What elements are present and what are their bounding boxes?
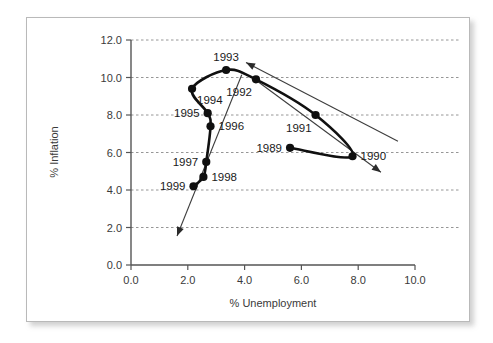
x-tick-label-2: 2.0 bbox=[180, 274, 195, 286]
y-tick-label-6: 6.0 bbox=[107, 147, 122, 159]
data-label-1993: 1993 bbox=[213, 51, 239, 63]
data-point-1999 bbox=[189, 182, 197, 190]
data-point-1996 bbox=[206, 122, 214, 130]
data-label-1999: 1999 bbox=[160, 180, 186, 192]
x-tick-label-4: 4.0 bbox=[237, 274, 252, 286]
data-point-1998 bbox=[199, 173, 207, 181]
x-axis-tick-labels: 0.02.04.06.08.010.0 bbox=[123, 274, 425, 286]
data-series-curve bbox=[192, 70, 353, 187]
x-axis-ticks bbox=[131, 265, 415, 270]
y-tick-label-10: 10.0 bbox=[101, 72, 122, 84]
y-tick-label-8: 8.0 bbox=[107, 109, 122, 121]
data-point-1995 bbox=[204, 109, 212, 117]
data-label-1989: 1989 bbox=[256, 142, 282, 154]
data-label-1997: 1997 bbox=[173, 156, 199, 168]
data-point-1989 bbox=[286, 144, 294, 152]
phillips-curve-path bbox=[192, 70, 353, 187]
x-tick-label-0: 0.0 bbox=[123, 274, 138, 286]
chart-canvas: 0.02.04.06.08.010.012.0 0.02.04.06.08.01… bbox=[26, 17, 470, 322]
x-axis-title: % Unemployment bbox=[230, 297, 317, 309]
y-tick-label-4: 4.0 bbox=[107, 184, 122, 196]
data-label-1995: 1995 bbox=[174, 107, 200, 119]
y-axis-ticks bbox=[126, 40, 131, 265]
x-tick-label-6: 6.0 bbox=[294, 274, 309, 286]
y-tick-label-0: 0.0 bbox=[107, 259, 122, 271]
data-point-1990 bbox=[348, 152, 356, 160]
data-label-1998: 1998 bbox=[211, 171, 237, 183]
data-point-1993 bbox=[222, 66, 230, 74]
data-point-1994 bbox=[188, 85, 196, 93]
chart-svg: 0.02.04.06.08.010.012.0 0.02.04.06.08.01… bbox=[26, 17, 470, 322]
data-point-1997 bbox=[202, 158, 210, 166]
data-label-1996: 1996 bbox=[219, 120, 245, 132]
x-tick-label-10: 10.0 bbox=[404, 274, 425, 286]
y-axis-title: % Inflation bbox=[48, 126, 60, 177]
data-label-1990: 1990 bbox=[361, 150, 387, 162]
lower-trend-arrow-head bbox=[372, 164, 381, 172]
data-point-labels: 1989199019911992199319941995199619971998… bbox=[160, 51, 386, 192]
x-tick-label-8: 8.0 bbox=[351, 274, 366, 286]
data-label-1991: 1991 bbox=[286, 122, 312, 134]
data-point-1992 bbox=[252, 75, 260, 83]
upper-trend-arrow-head bbox=[246, 63, 256, 70]
data-label-1994: 1994 bbox=[197, 94, 223, 106]
figure-root: 0.02.04.06.08.010.012.0 0.02.04.06.08.01… bbox=[0, 0, 493, 343]
y-tick-label-12: 12.0 bbox=[101, 34, 122, 46]
data-label-1992: 1992 bbox=[226, 86, 252, 98]
y-axis-tick-labels: 0.02.04.06.08.010.012.0 bbox=[101, 34, 122, 271]
y-tick-label-2: 2.0 bbox=[107, 222, 122, 234]
data-point-1991 bbox=[312, 111, 320, 119]
